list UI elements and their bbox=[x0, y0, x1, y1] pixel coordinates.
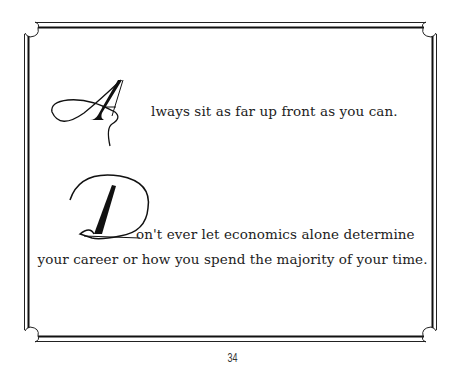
initial-a-icon bbox=[52, 80, 123, 146]
quote-2-rest: on't ever let economics alone determine bbox=[136, 226, 415, 242]
quote-2-text-line2: your career or how you spend the majorit… bbox=[0, 251, 465, 267]
page-number: 34 bbox=[58, 351, 407, 365]
quote-1-rest: lways sit as far up front as you can. bbox=[151, 103, 398, 119]
quote-2-text-line1: on't ever let economics alone determine bbox=[136, 226, 415, 242]
corner-flourish-tl bbox=[25, 22, 39, 37]
corner-flourish-tr bbox=[422, 22, 436, 37]
decorative-frame bbox=[0, 0, 465, 371]
corner-flourish-bl bbox=[25, 327, 39, 342]
quote-1-text: lways sit as far up front as you can. bbox=[151, 103, 398, 119]
corner-flourish-br bbox=[422, 327, 436, 342]
